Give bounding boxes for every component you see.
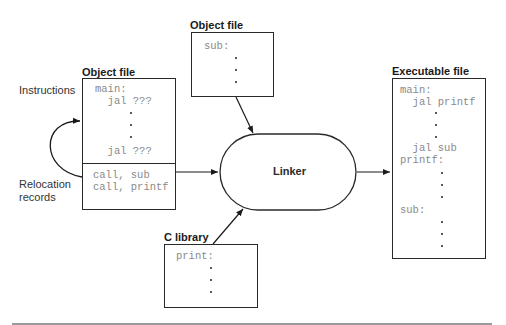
instruction-line: main: [95, 83, 127, 95]
ellipsis-dot [130, 124, 132, 126]
top-object-code-line: sub: [204, 40, 229, 52]
instruction-line: jal ??? [95, 145, 152, 157]
section-divider [83, 163, 175, 164]
arrow-relocation-to-instructions [50, 121, 82, 177]
ellipsis-dot [435, 136, 437, 138]
ellipsis-dot [210, 291, 212, 293]
top-object-file-title: Object file [190, 19, 243, 31]
relocation-record: call, sub [93, 169, 150, 181]
executable-file-title: Executable file [392, 65, 469, 77]
ellipsis-dot [441, 245, 443, 247]
ellipsis-dot [210, 267, 212, 269]
relocation-label-line1: Relocation [19, 178, 71, 191]
instruction-line: jal ??? [95, 95, 152, 107]
left-object-file-box: main: jal ??? jal ??? call, sub call, pr… [82, 78, 176, 210]
c-library-code-line: print: [176, 250, 214, 262]
ellipsis-dot [235, 69, 237, 71]
linker-label: Linker [273, 165, 306, 177]
ellipsis-dot [441, 172, 443, 174]
ellipsis-dot [441, 196, 443, 198]
ellipsis-dot [130, 112, 132, 114]
exec-code-line: sub: [400, 204, 425, 216]
ellipsis-dot [441, 233, 443, 235]
c-library-title: C library [164, 231, 209, 243]
ellipsis-dot [435, 112, 437, 114]
executable-file-box: main: jal printf jal sub printf: sub: [392, 78, 486, 259]
instructions-label: Instructions [19, 84, 75, 97]
relocation-record: call, printf [93, 181, 169, 193]
exec-code-line: jal sub [400, 142, 457, 154]
exec-code-line: printf: [400, 154, 444, 166]
exec-code-line: main: [400, 84, 432, 96]
exec-code-line: jal printf [400, 96, 476, 108]
ellipsis-dot [210, 279, 212, 281]
ellipsis-dot [435, 124, 437, 126]
ellipsis-dot [441, 221, 443, 223]
ellipsis-dot [130, 136, 132, 138]
relocation-label-line2: records [19, 191, 56, 204]
left-object-file-title: Object file [82, 66, 135, 78]
ellipsis-dot [441, 184, 443, 186]
ellipsis-dot [235, 81, 237, 83]
arrow-top-object-to-linker [236, 97, 253, 133]
ellipsis-dot [235, 57, 237, 59]
top-object-file-box: sub: [191, 32, 274, 97]
arrow-clibrary-to-linker [213, 209, 243, 244]
c-library-box: print: [164, 244, 258, 308]
